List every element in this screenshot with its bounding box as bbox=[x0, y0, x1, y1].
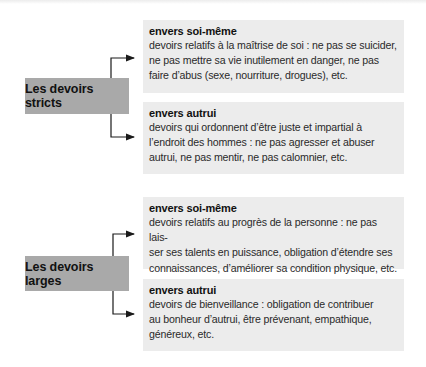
box-line: devoirs de bienveillance : obligation de… bbox=[149, 297, 398, 312]
box-line: généreux, etc. bbox=[149, 327, 398, 342]
box-title: envers soi-même bbox=[149, 24, 398, 38]
box-line: connaissances, d’améliorer sa condition … bbox=[149, 261, 398, 276]
box-larges-autrui: envers autrui devoirs de bienveillance :… bbox=[143, 279, 404, 351]
label-text: Les devoirs stricts bbox=[25, 82, 129, 110]
box-line: devoirs relatifs au progrès de la person… bbox=[149, 215, 398, 245]
label-text: Les devoirs larges bbox=[25, 260, 129, 288]
box-line: ser ses talents en puissance, obligation… bbox=[149, 245, 398, 260]
label-devoirs-stricts: Les devoirs stricts bbox=[25, 78, 129, 114]
box-line: devoirs qui ordonnent d’être juste et im… bbox=[149, 120, 398, 135]
box-stricts-autrui: envers autrui devoirs qui ordonnent d’êt… bbox=[143, 102, 404, 174]
box-larges-soi-meme: envers soi-même devoirs relatifs au prog… bbox=[143, 197, 404, 269]
box-line: l’endroit des hommes : ne pas agresser e… bbox=[149, 135, 398, 150]
box-line: au bonheur d’autrui, être prévenant, emp… bbox=[149, 312, 398, 327]
box-line: ne pas mettre sa vie inutilement en dang… bbox=[149, 53, 398, 68]
box-title: envers autrui bbox=[149, 283, 398, 297]
box-title: envers autrui bbox=[149, 106, 398, 120]
box-line: faire d’abus (sexe, nourriture, drogues)… bbox=[149, 68, 398, 83]
box-line: autrui, ne pas mentir, ne pas calomnier,… bbox=[149, 150, 398, 165]
box-line: devoirs relatifs à la maîtrise de soi : … bbox=[149, 38, 398, 53]
label-devoirs-larges: Les devoirs larges bbox=[25, 256, 129, 291]
box-title: envers soi-même bbox=[149, 201, 398, 215]
box-stricts-soi-meme: envers soi-même devoirs relatifs à la ma… bbox=[143, 20, 404, 93]
